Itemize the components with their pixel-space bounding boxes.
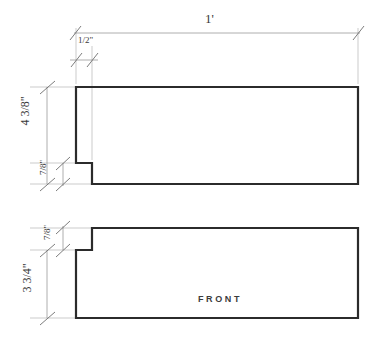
tick-upper-height-top: [40, 81, 55, 94]
dimension-label-upper-height: 4 3/8": [19, 96, 31, 125]
dimension-label-lower-notch-height: 7/8": [43, 225, 52, 240]
dimension-ticks: [40, 26, 364, 325]
dimension-label-notch-width: 1/2": [78, 36, 93, 45]
dimension-label-overall-width: 1': [205, 12, 214, 25]
lower-board-profile: [76, 228, 358, 318]
dimension-label-lower-height: 3 3/4": [21, 263, 33, 292]
technical-drawing-canvas: [0, 0, 374, 342]
tick-lower-height-top: [40, 244, 55, 257]
tick-lower-height-bottom: [40, 312, 55, 325]
dimension-label-upper-notch-height: 7/8": [39, 160, 48, 175]
tick-upper-height-bottom: [40, 178, 55, 191]
view-title-front: FRONT: [198, 295, 242, 304]
extension-lines: [30, 28, 358, 318]
dimension-lines: [47, 33, 360, 318]
upper-board-profile: [76, 87, 358, 184]
